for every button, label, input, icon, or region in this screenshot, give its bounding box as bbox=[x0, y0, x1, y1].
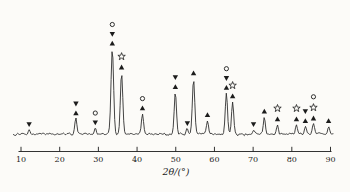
star-marker-icon bbox=[118, 53, 125, 60]
triangle-up-marker-icon bbox=[110, 41, 115, 46]
x-axis-tick-label: 70 bbox=[248, 155, 258, 164]
x-axis-tick-label: 10 bbox=[16, 155, 26, 164]
star-marker-icon bbox=[274, 105, 281, 112]
triangle-down-marker-icon bbox=[26, 122, 31, 127]
star-marker-icon bbox=[293, 105, 300, 112]
triangle-up-marker-icon bbox=[119, 65, 124, 70]
triangle-up-marker-icon bbox=[303, 118, 308, 123]
star-marker-icon bbox=[229, 82, 236, 89]
triangle-up-marker-icon bbox=[191, 71, 196, 76]
triangle-up-marker-icon bbox=[326, 118, 331, 123]
circle-marker-icon bbox=[311, 95, 315, 99]
triangle-down-marker-icon bbox=[251, 122, 256, 127]
triangle-up-marker-icon bbox=[275, 116, 280, 121]
x-axis: 102030405060708090 bbox=[16, 147, 336, 164]
circle-marker-icon bbox=[224, 67, 228, 71]
xrd-pattern-figure: 102030405060708090 2θ/(°) bbox=[0, 0, 350, 192]
triangle-up-marker-icon bbox=[140, 105, 145, 110]
x-axis-tick-label: 20 bbox=[55, 155, 65, 164]
triangle-up-marker-icon bbox=[230, 94, 235, 99]
triangle-up-marker-icon bbox=[262, 109, 267, 114]
triangle-down-marker-icon bbox=[224, 76, 229, 81]
xrd-chart-canvas: 102030405060708090 2θ/(°) bbox=[0, 0, 350, 192]
xrd-trace bbox=[13, 52, 333, 136]
circle-marker-icon bbox=[110, 22, 114, 26]
triangle-down-marker-icon bbox=[173, 75, 178, 80]
star-marker-icon bbox=[310, 104, 317, 111]
x-axis-tick-label: 30 bbox=[93, 155, 103, 164]
triangle-up-marker-icon bbox=[294, 116, 299, 121]
x-axis-label: 2θ/(°) bbox=[161, 166, 189, 177]
triangle-up-marker-icon bbox=[224, 85, 229, 90]
triangle-up-marker-icon bbox=[173, 84, 178, 89]
x-axis-tick-label: 60 bbox=[209, 155, 219, 164]
x-axis-tick-label: 50 bbox=[171, 155, 181, 164]
x-axis-tick-label: 40 bbox=[132, 155, 142, 164]
triangle-up-marker-icon bbox=[73, 111, 78, 116]
x-axis-tick-label: 80 bbox=[287, 155, 297, 164]
triangle-down-marker-icon bbox=[73, 102, 78, 107]
circle-marker-icon bbox=[93, 111, 97, 115]
x-axis-tick-label: 90 bbox=[325, 155, 335, 164]
triangle-up-marker-icon bbox=[311, 116, 316, 121]
triangle-down-marker-icon bbox=[185, 121, 190, 126]
triangle-down-marker-icon bbox=[303, 109, 308, 114]
triangle-down-marker-icon bbox=[110, 32, 115, 37]
triangle-up-marker-icon bbox=[205, 112, 210, 117]
circle-marker-icon bbox=[140, 97, 144, 101]
phase-markers bbox=[26, 22, 331, 127]
diffraction-trace bbox=[13, 52, 333, 136]
triangle-down-marker-icon bbox=[93, 120, 98, 125]
